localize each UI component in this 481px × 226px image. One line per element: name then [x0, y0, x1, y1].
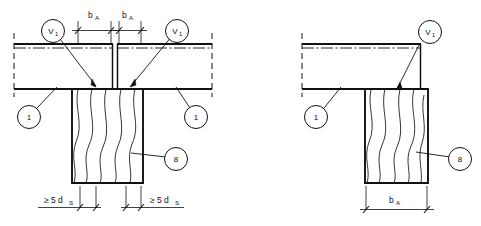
dimension-label-ba-sub: A: [396, 199, 401, 206]
callout-part-8-left-view: 8: [131, 148, 188, 171]
callout-label-v1-left: V: [48, 27, 54, 36]
callout-label-v1-sub: 1: [432, 32, 435, 38]
callout-v1: V 1: [396, 21, 442, 91]
column-outline: [72, 89, 143, 183]
dimension-ds-left: ≥ 5 d S: [38, 186, 101, 211]
dimension-label-ba: b: [389, 195, 394, 205]
callout-label-part-1-left: 1: [27, 113, 32, 122]
dimension-label-ba-left-sub: A: [95, 14, 100, 21]
callout-v1-left: V 1: [42, 20, 97, 88]
dimension-label-ba-left: b: [88, 10, 93, 20]
dimension-ba-left: b A: [72, 10, 117, 44]
view-beam-end-on-column: V 1 1 8 b A: [302, 21, 472, 214]
leader-part-1-right: [176, 87, 190, 108]
arrowhead-v1-left: [91, 79, 96, 87]
dimension-label-ds-left: ≥ 5 d: [44, 195, 63, 205]
column-wood-grain: [367, 89, 425, 183]
callout-label-v1-right: V: [172, 27, 178, 36]
callout-part-8: 8: [416, 148, 472, 171]
dimension-label-ds-right-sub: S: [175, 199, 179, 206]
dimension-ds-right: ≥ 5 d S: [121, 186, 184, 211]
leader-part-1-left: [37, 87, 57, 108]
dimension-label-ds-left-sub: S: [69, 199, 73, 206]
callout-label-v1: V: [425, 28, 431, 37]
dimension-label-ba-right-sub: A: [129, 14, 134, 21]
leader-part-8-left-view: [131, 153, 166, 157]
leader-v1-left: [57, 35, 96, 86]
technical-drawing-canvas: b A b A V 1: [0, 0, 481, 226]
callout-label-part-8: 8: [458, 155, 463, 164]
dimension-label-ds-right: ≥ 5 d: [150, 195, 169, 205]
callout-label-v1-right-sub: 1: [179, 31, 182, 37]
dimension-label-ba-right: b: [122, 10, 127, 20]
arrowhead-v1-right: [130, 79, 136, 87]
dimension-ba: b A: [360, 186, 434, 213]
column-outline: [365, 89, 428, 183]
drawing-sheet: b A b A V 1: [0, 0, 481, 226]
leader-part-8: [416, 152, 450, 157]
callout-label-v1-left-sub: 1: [55, 31, 58, 37]
callout-part-1-right: 1: [176, 87, 208, 129]
callout-label-part-8-left-view: 8: [174, 155, 179, 164]
callout-v1-right: V 1: [130, 20, 189, 88]
callout-label-part-1-right: 1: [194, 113, 199, 122]
column-wood-grain: [74, 89, 136, 183]
callout-part-1-left: 1: [18, 87, 58, 129]
dimension-ba-right: b A: [113, 10, 147, 44]
view-continuous-beam-over-column: b A b A V 1: [14, 10, 212, 211]
callout-label-part-1: 1: [314, 113, 319, 122]
callout-part-1: 1: [305, 87, 342, 129]
leader-part-1: [324, 87, 341, 108]
leader-v1: [397, 43, 420, 89]
